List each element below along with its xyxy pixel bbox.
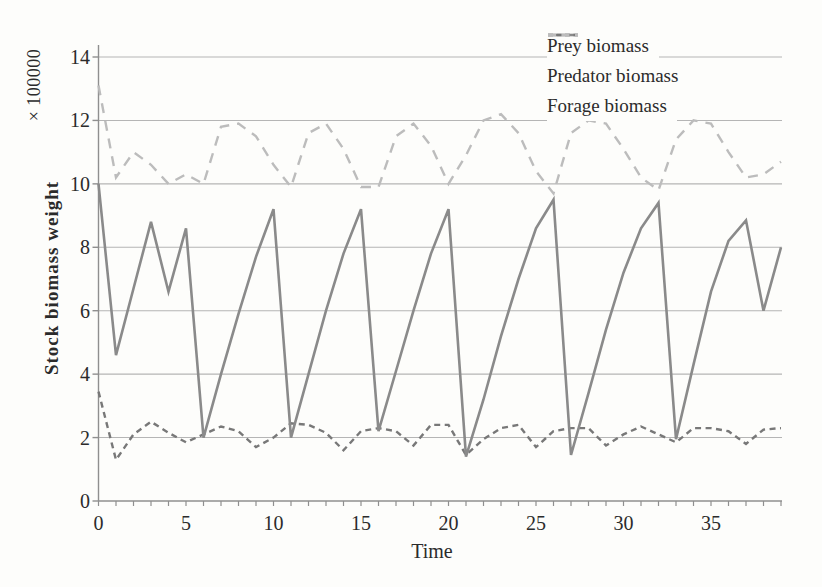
chart-canvas <box>0 0 822 587</box>
x-tick-label-10: 10 <box>252 512 296 534</box>
legend-item-predator: Predator biomass <box>547 61 688 91</box>
forage-line-sample-icon <box>547 31 579 39</box>
y-tick-label-10: 10 <box>20 173 90 195</box>
y-tick-label-0: 0 <box>20 490 90 512</box>
y-tick-label-8: 8 <box>20 236 90 258</box>
y-tick-label-12: 12 <box>20 109 90 131</box>
y-tick-label-14: 14 <box>20 46 90 68</box>
x-tick-label-5: 5 <box>164 512 208 534</box>
chart-figure: × 100000 Stock biomass weight Time 02468… <box>0 0 822 587</box>
x-tick-label-0: 0 <box>77 512 121 534</box>
x-tick-label-30: 30 <box>602 512 646 534</box>
y-tick-label-6: 6 <box>20 300 90 322</box>
legend: Prey biomass Predator biomass Forage bio… <box>547 31 688 121</box>
x-tick-label-35: 35 <box>689 512 733 534</box>
y-tick-label-4: 4 <box>20 363 90 385</box>
legend-item-forage: Forage biomass <box>547 91 677 121</box>
legend-label-forage: Forage biomass <box>547 95 667 117</box>
x-tick-label-20: 20 <box>427 512 471 534</box>
y-tick-label-2: 2 <box>20 427 90 449</box>
prey-biomass-series-line <box>99 184 782 457</box>
x-tick-label-25: 25 <box>514 512 558 534</box>
x-tick-label-15: 15 <box>339 512 383 534</box>
legend-label-predator: Predator biomass <box>547 65 678 87</box>
x-axis-title: Time <box>411 540 453 563</box>
y-axis-title: Stock biomass weight <box>41 181 63 375</box>
